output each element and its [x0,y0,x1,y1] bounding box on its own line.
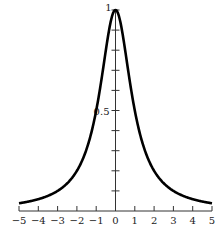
x-tick-label: 5 [209,215,215,226]
axes [19,10,212,211]
x-tick-label: 0 [112,215,118,226]
y-tick-label: 1 [105,2,111,13]
lorentzian-curve-chart: −5−4−3−2−101234510.5 [0,0,220,227]
x-tick-label: 3 [170,215,176,226]
x-tick-label: 1 [132,215,138,226]
x-tick-label: −3 [50,215,65,226]
x-tick-label: −2 [70,215,85,226]
x-tick-label: −5 [12,215,27,226]
x-tick-label: −4 [31,215,46,226]
x-tick-label: 2 [151,215,157,226]
x-tick-label: 4 [190,215,196,226]
tick-labels: −5−4−3−2−101234510.5 [12,2,216,226]
x-tick-label: −1 [89,215,104,226]
